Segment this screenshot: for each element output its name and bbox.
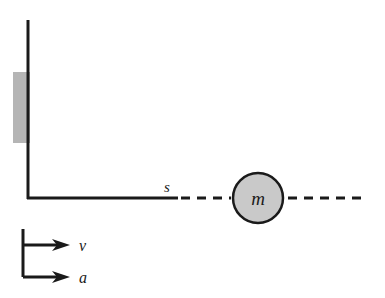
diagram-canvas: s m v a (0, 0, 385, 298)
physics-diagram: s m v a (0, 0, 385, 298)
mass-label: m (251, 188, 265, 209)
velocity-label: v (79, 237, 87, 254)
displacement-label: s (164, 179, 170, 195)
acceleration-label: a (79, 269, 87, 286)
